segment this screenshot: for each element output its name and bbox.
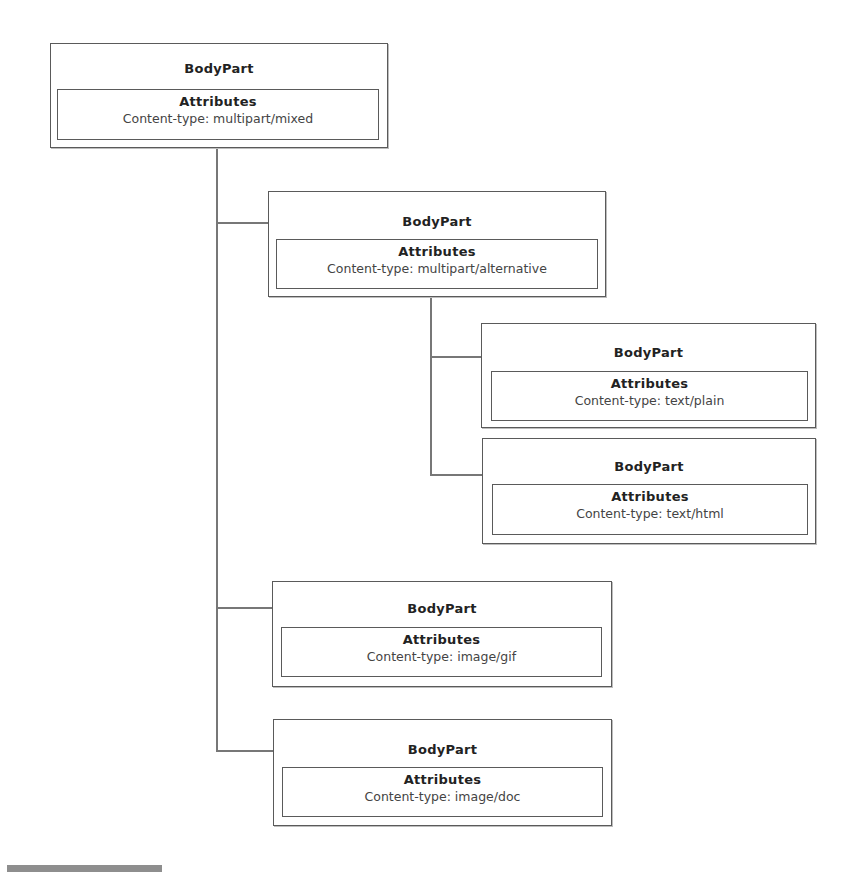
bodypart-node-image-doc[interactable]: BodyPart Attributes Content-type: image/…	[273, 719, 612, 826]
node-title: BodyPart	[482, 345, 815, 360]
content-type-value: Content-type: text/plain	[492, 392, 807, 410]
content-type-value: Content-type: image/doc	[283, 788, 602, 806]
attributes-box: Attributes Content-type: image/doc	[282, 767, 603, 817]
bodypart-node-image-gif[interactable]: BodyPart Attributes Content-type: image/…	[272, 581, 612, 687]
content-type-value: Content-type: text/html	[493, 505, 807, 523]
connector-alternative-to-html	[430, 474, 483, 476]
content-type-value: Content-type: multipart/alternative	[277, 260, 597, 278]
attributes-label: Attributes	[493, 489, 807, 505]
bodypart-node-text-html[interactable]: BodyPart Attributes Content-type: text/h…	[482, 438, 816, 544]
attributes-box: Attributes Content-type: multipart/alter…	[276, 239, 598, 289]
node-title: BodyPart	[51, 61, 387, 76]
node-title: BodyPart	[274, 742, 611, 757]
content-type-value: Content-type: image/gif	[282, 648, 601, 666]
attributes-label: Attributes	[283, 772, 602, 788]
bodypart-node-text-plain[interactable]: BodyPart Attributes Content-type: text/p…	[481, 323, 816, 428]
node-title: BodyPart	[273, 601, 611, 616]
attributes-label: Attributes	[282, 632, 601, 648]
bodypart-node-multipart-alternative[interactable]: BodyPart Attributes Content-type: multip…	[268, 191, 606, 297]
attributes-label: Attributes	[277, 244, 597, 260]
attributes-label: Attributes	[492, 376, 807, 392]
node-title: BodyPart	[483, 459, 815, 474]
attributes-label: Attributes	[58, 94, 378, 110]
connector-alternative-to-plain	[430, 356, 482, 358]
footer-bar	[7, 865, 162, 872]
attributes-box: Attributes Content-type: multipart/mixed	[57, 89, 379, 140]
connector-root-to-gif	[216, 607, 273, 609]
connector-alternative-trunk	[430, 296, 432, 476]
node-title: BodyPart	[269, 214, 605, 229]
attributes-box: Attributes Content-type: text/plain	[491, 371, 808, 421]
content-type-value: Content-type: multipart/mixed	[58, 110, 378, 128]
connector-root-to-alternative	[216, 222, 269, 224]
connector-root-to-doc	[216, 750, 274, 752]
attributes-box: Attributes Content-type: text/html	[492, 484, 808, 535]
connector-root-trunk	[216, 147, 218, 752]
bodypart-node-multipart-mixed[interactable]: BodyPart Attributes Content-type: multip…	[50, 43, 388, 148]
attributes-box: Attributes Content-type: image/gif	[281, 627, 602, 677]
